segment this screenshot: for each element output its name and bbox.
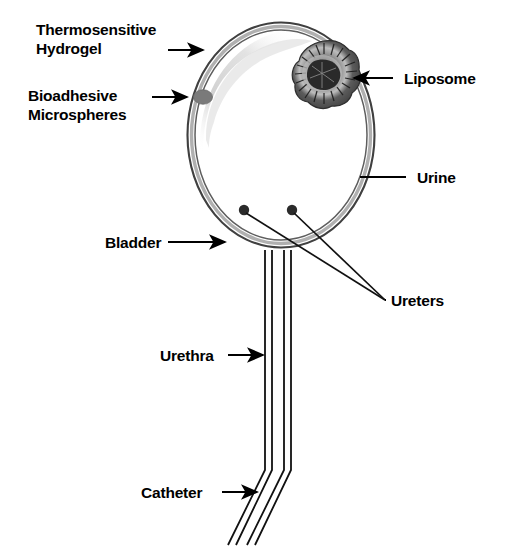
bioadhesive-microsphere (194, 90, 213, 104)
label-liposome: Liposome (404, 69, 476, 88)
label-catheter: Catheter (141, 483, 202, 502)
label-urine: Urine (417, 168, 456, 187)
label-ureters: Ureters (391, 291, 444, 310)
label-urethra: Urethra (160, 346, 214, 365)
label-bladder: Bladder (105, 233, 161, 252)
label-bioadhesive-microspheres: Bioadhesive Microspheres (28, 86, 126, 124)
urethra-catheter-tube (228, 250, 291, 545)
label-thermosensitive-hydrogel: Thermosensitive Hydrogel (36, 20, 156, 58)
